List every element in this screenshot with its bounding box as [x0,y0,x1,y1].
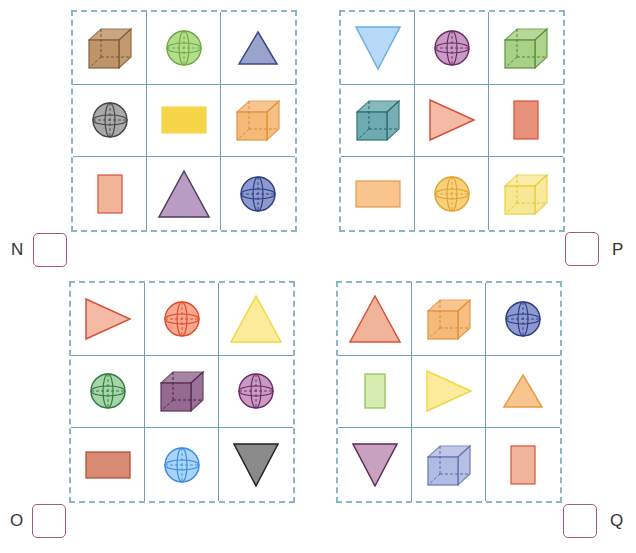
grid-cell [338,356,412,429]
sphere-icon [163,446,201,484]
grid-cell [412,356,486,429]
sphere-icon [91,101,129,139]
cube-icon [503,26,549,70]
label-Q: Q [610,511,623,531]
grid-cell [145,283,219,356]
sphere-icon [163,300,201,338]
label-N: N [11,240,23,260]
answer-box-N[interactable] [33,233,67,267]
rect-wide-icon [85,451,131,479]
grid-cell [221,157,295,230]
triangle-down-icon [354,25,402,71]
label-P: P [612,240,623,260]
triangle-up-large-icon [348,294,402,344]
rect-tall-icon [510,445,536,485]
grid-cell [412,428,486,501]
grid-cell [73,157,147,230]
grid-P [339,10,565,232]
sphere-icon [504,300,542,338]
cube-icon [426,297,472,341]
rect-wide-icon [355,180,401,208]
rect-tall-icon [513,100,539,140]
grid-cell [73,12,147,85]
grid-cell [489,12,563,85]
grid-cell [341,157,415,230]
grid-cell [221,12,295,85]
grid-cell [219,428,293,501]
grid-cell [219,283,293,356]
grid-cell [147,12,221,85]
grid-cell [341,12,415,85]
cube-icon [235,98,281,142]
grid-cell [145,428,219,501]
triangle-up-large-icon [229,294,283,344]
grid-cell [71,356,145,429]
rect-tall-icon [97,174,123,214]
triangle-up-large-icon [157,169,211,219]
cube-icon [159,369,205,413]
cube-icon [87,26,133,70]
grid-cell [73,85,147,158]
sphere-icon [89,372,127,410]
grid-cell [415,12,489,85]
answer-box-O[interactable] [32,504,66,538]
grid-cell [147,157,221,230]
grid-cell [486,356,560,429]
grid-cell [221,85,295,158]
grid-cell [71,428,145,501]
grid-cell [412,283,486,356]
grid-cell [489,85,563,158]
grid-cell [341,85,415,158]
triangle-right-icon [84,297,132,341]
sphere-icon [237,372,275,410]
grid-cell [219,356,293,429]
answer-box-P[interactable] [565,232,599,266]
grid-O [69,281,295,503]
grid-cell [489,157,563,230]
grid-cell [71,283,145,356]
label-O: O [10,511,23,531]
grid-N [71,10,297,232]
grid-cell [486,283,560,356]
grid-Q [336,281,562,503]
sphere-icon [433,29,471,67]
triangle-down-icon [351,442,399,488]
grid-cell [486,428,560,501]
sphere-icon [433,175,471,213]
rect-tall-small-icon [364,373,386,409]
cube-icon [503,172,549,216]
triangle-right-icon [428,98,476,142]
grid-cell [415,157,489,230]
grid-cell [338,428,412,501]
triangle-right-icon [425,369,473,413]
triangle-up-icon [502,373,544,409]
grid-cell [338,283,412,356]
triangle-down-icon [232,442,280,488]
grid-cell [415,85,489,158]
answer-box-Q[interactable] [563,504,597,538]
cube-icon [355,98,401,142]
grid-cell [147,85,221,158]
rect-wide-icon [161,106,207,134]
triangle-up-icon [237,30,279,66]
cube-icon [426,443,472,487]
sphere-icon [165,29,203,67]
grid-cell [145,356,219,429]
sphere-icon [239,175,277,213]
